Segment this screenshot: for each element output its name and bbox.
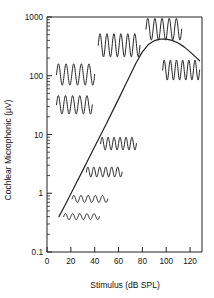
x-tick-label: 60 — [114, 257, 124, 266]
y-tick-label: 10 — [34, 131, 44, 140]
y-tick-label: 1000 — [25, 13, 44, 22]
x-axis-title: Stimulus (dB SPL) — [90, 280, 160, 290]
x-tick-label: 0 — [45, 257, 50, 266]
x-tick-label: 100 — [159, 257, 173, 266]
x-tick-label: 120 — [183, 257, 197, 266]
y-tick-label: 1 — [38, 189, 43, 198]
y-tick-label: 0.1 — [32, 248, 44, 257]
y-axis-title: Cochlear Microphonic (µV) — [3, 99, 13, 200]
x-tick-label: 20 — [66, 257, 76, 266]
cochlear-microphonic-chart: 0.11101001000 020406080100120 Stimulus (… — [0, 0, 214, 298]
y-tick-label: 100 — [29, 72, 43, 81]
x-tick-label: 80 — [138, 257, 148, 266]
x-tick-label: 40 — [90, 257, 100, 266]
